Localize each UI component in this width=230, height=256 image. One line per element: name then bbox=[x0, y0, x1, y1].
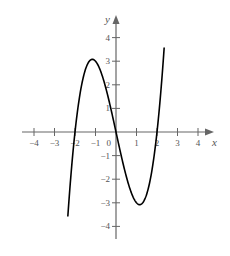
y-tick-label: −4 bbox=[100, 221, 110, 231]
y-axis-label: y bbox=[104, 13, 110, 25]
x-tick-label: −4 bbox=[29, 138, 39, 148]
y-tick-label: 4 bbox=[106, 33, 111, 43]
cubic-function-plot: −4−3−2−11234−4−3−2−112340xy bbox=[0, 0, 230, 256]
y-tick-label: −1 bbox=[100, 151, 110, 161]
chart-root: −4−3−2−11234−4−3−2−112340xy bbox=[0, 0, 230, 256]
y-tick-label: −3 bbox=[100, 198, 110, 208]
x-tick-label: 3 bbox=[175, 138, 180, 148]
y-axis-arrow-icon bbox=[113, 15, 120, 24]
y-tick-label: −2 bbox=[100, 174, 110, 184]
origin-label: 0 bbox=[107, 138, 112, 148]
x-tick-label: −1 bbox=[91, 138, 101, 148]
y-tick-label: 3 bbox=[106, 56, 111, 66]
x-tick-label: −3 bbox=[50, 138, 60, 148]
x-axis-label: x bbox=[211, 136, 217, 148]
x-tick-label: 1 bbox=[134, 138, 139, 148]
x-tick-label: 4 bbox=[196, 138, 201, 148]
x-axis-arrow-icon bbox=[205, 129, 214, 136]
